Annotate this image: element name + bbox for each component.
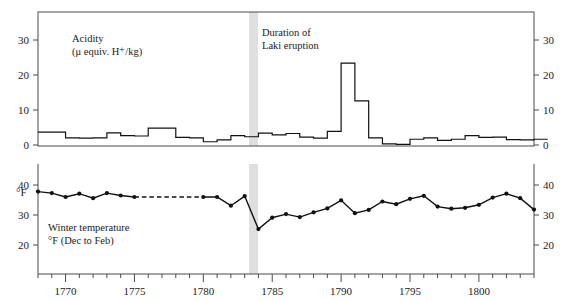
temperature-point-1781	[215, 195, 219, 199]
acidity-ytick-20: 20	[18, 69, 30, 81]
temperature-point-1795	[408, 197, 412, 201]
temperature-point-1773	[105, 191, 109, 195]
acidity-ytick-right-30: 30	[543, 34, 555, 46]
x-axis-label-1775: 1775	[123, 285, 146, 297]
temperature-point-1799	[463, 206, 467, 210]
temperature-point-1804	[532, 208, 536, 212]
temperature-point-1769	[50, 191, 54, 195]
acidity-label-line1: Acidity	[72, 33, 104, 44]
eruption-label-line2: Laki eruption	[262, 40, 320, 51]
temperature-point-1793	[380, 199, 384, 203]
temperature-point-1768	[36, 190, 40, 194]
acidity-panel: 30 20 10 0 30 20 10 0 Acidity (μ equiv. …	[18, 12, 555, 151]
temperature-point-1792	[367, 208, 371, 212]
temperature-point-1797	[436, 205, 440, 209]
acidity-ytick-right-10: 10	[543, 104, 555, 116]
temperature-ytick-30: 30	[18, 209, 30, 221]
x-axis-label-1780: 1780	[192, 285, 215, 297]
temperature-ytick-right-40: 40	[543, 179, 555, 191]
acidity-y-ticks-left: 30 20 10 0	[18, 34, 38, 151]
acidity-step-line	[38, 63, 548, 144]
temperature-axis-label: °F	[16, 186, 27, 198]
temperature-point-1770	[64, 195, 68, 199]
chart-svg: 30 20 10 0 30 20 10 0 Acidity (μ equiv. …	[0, 0, 576, 301]
acidity-ytick-right-20: 20	[543, 69, 555, 81]
temperature-point-1786	[284, 212, 288, 216]
eruption-label-line1: Duration of	[262, 27, 311, 38]
temperature-point-1771	[77, 192, 81, 196]
acidity-y-ticks-right: 30 20 10 0	[534, 34, 555, 151]
temperature-panel: 40 30 20 40 30 20 °F Winter temperature …	[16, 164, 555, 297]
temperature-point-1785	[270, 216, 274, 220]
acidity-label-line2: (μ equiv. H⁺/kg)	[72, 46, 143, 58]
temperature-point-1801	[491, 196, 495, 200]
temperature-point-1782	[229, 204, 233, 208]
x-axis-label-1790: 1790	[330, 285, 353, 297]
temperature-ytick-right-30: 30	[543, 209, 555, 221]
temperature-point-1784	[256, 227, 260, 231]
temperature-point-1780	[201, 195, 205, 199]
temperature-point-1798	[449, 207, 453, 211]
x-axis-ticks	[38, 274, 534, 282]
temperature-point-1790	[339, 198, 343, 202]
acidity-ytick-0: 0	[24, 139, 30, 151]
acidity-ytick-30: 30	[18, 34, 30, 46]
x-axis-label-1800: 1800	[468, 285, 491, 297]
temperature-point-1772	[91, 196, 95, 200]
temperature-caption-line1: Winter temperature	[48, 222, 130, 233]
figure-laki-eruption-acidity-temperature: 30 20 10 0 30 20 10 0 Acidity (μ equiv. …	[0, 0, 576, 301]
temperature-ytick-right-20: 20	[543, 239, 555, 251]
temperature-point-1775	[132, 195, 136, 199]
temperature-caption-line2: °F (Dec to Feb)	[48, 235, 114, 247]
x-axis-label-1785: 1785	[261, 285, 284, 297]
x-axis-labels: 1770177517801785179017951800	[55, 285, 491, 297]
temperature-point-1800	[477, 203, 481, 207]
temperature-y-ticks-right: 40 30 20	[534, 179, 555, 251]
temperature-point-1796	[422, 194, 426, 198]
temperature-point-1787	[298, 215, 302, 219]
temperature-point-1791	[353, 211, 357, 215]
temperature-point-1774	[119, 193, 123, 197]
temperature-point-1783	[243, 194, 247, 198]
eruption-band-acidity	[249, 12, 258, 146]
x-axis-label-1770: 1770	[55, 285, 78, 297]
temperature-ytick-20: 20	[18, 239, 30, 251]
temperature-point-1789	[325, 206, 329, 210]
acidity-ytick-10: 10	[18, 104, 30, 116]
temperature-point-1794	[394, 202, 398, 206]
acidity-ytick-right-0: 0	[543, 139, 549, 151]
temperature-point-1802	[504, 192, 508, 196]
temperature-point-1803	[518, 196, 522, 200]
temperature-point-1788	[312, 210, 316, 214]
x-axis-label-1795: 1795	[399, 285, 422, 297]
